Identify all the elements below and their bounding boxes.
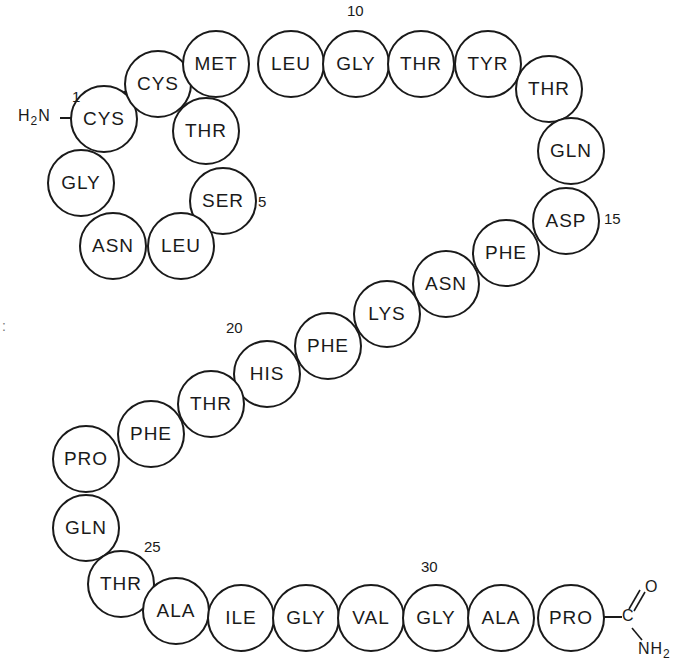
residue-27-ile: ILE [207,584,275,652]
residue-3-thr: THR [172,97,240,165]
residue-5-leu: LEU [147,212,215,280]
residue-26-ala: ALA [142,577,210,645]
edge-mark: : [2,318,6,334]
residue-10-gly: GLY [322,30,390,98]
residue-6-asn: ASN [79,212,147,280]
residue-16-phe: PHE [472,219,540,287]
residue-32-pro: PRO [537,584,605,652]
residue-22-phe: PHE [117,400,185,468]
residue-21-thr: THR [177,370,245,438]
residue-9-leu: LEU [257,30,325,98]
position-label-30: 30 [421,558,438,575]
residue-31-ala: ALA [467,584,535,652]
position-label-10: 10 [347,2,364,19]
residue-11-thr: THR [387,30,455,98]
position-label-20: 20 [226,319,243,336]
peptide-sequence-diagram: H2N CYSCYSTHRSERLEUASNGLYMETLEUGLYTHRTYR… [0,0,680,670]
position-label-5: 5 [258,193,266,210]
residue-13-thr: THR [515,55,583,123]
residue-29-val: VAL [337,584,405,652]
residue-19-phe: PHE [294,312,362,380]
residue-18-lys: LYS [353,280,421,348]
c-terminus-amine: NH2 [638,640,671,661]
residue-7-gly: GLY [47,149,115,217]
residue-17-asn: ASN [412,250,480,318]
c-terminus-carbon: C [622,607,635,625]
position-label-15: 15 [604,210,621,227]
residue-15-asp: ASP [532,187,600,255]
position-label-25: 25 [144,538,161,555]
position-label-1: 1 [72,88,80,105]
carbonyl-double-bond-b [634,592,645,611]
amide-bond [632,628,642,640]
residue-12-tyr: TYR [454,30,522,98]
residue-30-gly: GLY [402,584,470,652]
residue-14-gln: GLN [537,117,605,185]
residue-8-met: MET [182,30,250,98]
n-terminus-label: H2N [18,107,51,128]
c-terminus-oxygen: O [645,578,658,596]
residue-28-gly: GLY [272,584,340,652]
residue-23-pro: PRO [52,425,120,493]
